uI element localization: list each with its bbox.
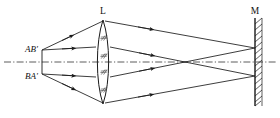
ray-focus-to-mirror-lower xyxy=(185,62,255,76)
ray-lensbottom-to-mirror-lower xyxy=(105,76,255,103)
lens-hatch-marks xyxy=(100,35,107,92)
ray-arrow-3 xyxy=(62,75,74,76)
object-top-label: AB' xyxy=(24,44,39,54)
optics-ray-diagram: L M AB' BA' xyxy=(0,0,280,118)
ray-arrow-8 xyxy=(138,95,152,98)
ray-arrow-6 xyxy=(139,53,153,56)
ray-arrow-7 xyxy=(139,68,153,71)
figure-canvas: L M AB' BA' xyxy=(0,0,280,118)
ray-lensapex-to-mirror-upper xyxy=(105,21,255,48)
ray-focus-to-mirror-upper xyxy=(185,48,255,62)
ray-arrow-4 xyxy=(62,84,74,90)
ray-arrow-2 xyxy=(62,48,74,49)
ray-top-to-lens-apex xyxy=(42,21,103,50)
object-bottom-label: BA' xyxy=(25,71,39,81)
ray-arrow-5 xyxy=(138,27,152,30)
mirror-label: M xyxy=(251,6,260,16)
ray-arrow-1 xyxy=(62,36,72,41)
lens-label: L xyxy=(100,6,106,16)
